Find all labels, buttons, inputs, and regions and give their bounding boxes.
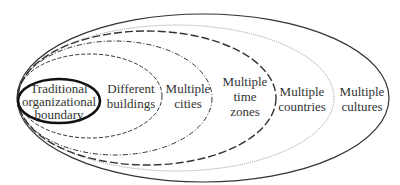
label-countries: Multiple countries	[278, 84, 326, 114]
svg-text:time: time	[233, 89, 256, 104]
svg-text:Multiple: Multiple	[280, 84, 325, 99]
label-cities: Multiple cities	[166, 81, 211, 111]
label-timezones: Multiple time zones	[223, 74, 268, 119]
svg-text:boundary: boundary	[34, 107, 84, 122]
svg-text:Multiple: Multiple	[223, 74, 268, 89]
svg-text:cultures: cultures	[341, 99, 382, 114]
label-buildings: Different buildings	[107, 81, 155, 111]
svg-text:countries: countries	[278, 99, 326, 114]
label-cultures: Multiple cultures	[340, 84, 385, 114]
svg-text:cities: cities	[174, 96, 201, 111]
label-traditional: Traditional organizational boundary	[22, 81, 97, 122]
nested-boundaries-diagram: Traditional organizational boundary Diff…	[0, 0, 400, 185]
svg-text:buildings: buildings	[107, 96, 155, 111]
svg-text:zones: zones	[230, 104, 260, 119]
svg-text:Multiple: Multiple	[340, 84, 385, 99]
svg-text:Multiple: Multiple	[166, 81, 211, 96]
svg-text:Different: Different	[107, 81, 155, 96]
